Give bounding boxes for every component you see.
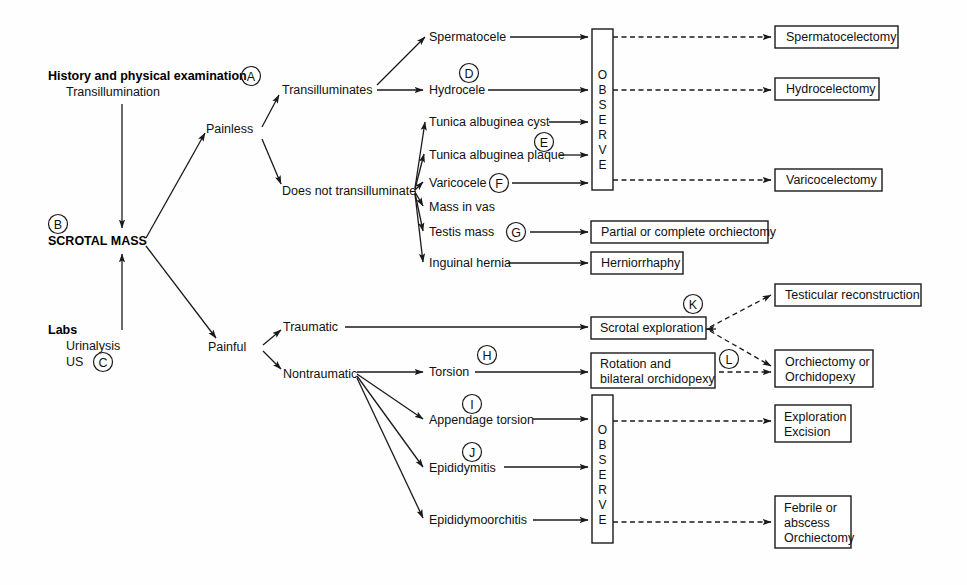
center-node-label: SCROTAL MASS: [48, 234, 147, 248]
letter-f-text: F: [495, 177, 503, 191]
box-testicular-reconstruction: Testicular reconstruction: [775, 284, 921, 306]
letter-g-text: G: [511, 226, 521, 240]
box-febrile-abscess-orchiectomy: Febrile or abscess Orchiectomy: [775, 496, 855, 548]
edge-scrotal-to-painless: [146, 133, 205, 238]
dx-epididymitis: Epididymitis: [429, 461, 496, 475]
dx-appendage-torsion: Appendage torsion: [429, 413, 534, 427]
observe-box-top: O B S E R V E: [592, 29, 613, 190]
box-hydrocelectomy: Hydrocelectomy: [775, 78, 879, 100]
labs-heading: Labs: [48, 323, 77, 337]
letter-g-badge: G: [507, 223, 526, 242]
dx-inguinal-hernia: Inguinal hernia: [429, 256, 511, 270]
root-group: History and physical examination Transil…: [48, 67, 261, 372]
painless-diagnosis-labels: Spermatocele Hydrocele Tunica albuginea …: [429, 30, 565, 270]
box-scrotal-exploration-text: Scrotal exploration: [600, 321, 704, 335]
dx-spermatocele: Spermatocele: [429, 30, 506, 44]
box-orchiectomy-line-1: Orchiectomy or: [785, 355, 870, 369]
branch-painless-label: Painless: [206, 122, 253, 136]
edge-painless-to-transilluminates: [262, 95, 279, 127]
box-orchiectomy-line-2: Orchidopexy: [785, 370, 856, 384]
letter-h-badge: H: [478, 346, 497, 365]
edge-nontraumatic-to-appendage-torsion: [357, 374, 423, 419]
box-spermatocelectomy-text: Spermatocelectomy: [786, 30, 897, 44]
dx-torsion: Torsion: [429, 365, 469, 379]
flowchart-canvas: History and physical examination Transil…: [0, 0, 967, 585]
svg-text:E: E: [598, 158, 606, 172]
edge-painful-to-traumatic: [263, 330, 281, 345]
letter-l-badge: L: [720, 350, 739, 369]
letter-e-text: E: [540, 136, 548, 150]
box-varicocelectomy-text: Varicocelectomy: [786, 173, 878, 187]
painful-diagnosis-labels: Torsion Appendage torsion Epididymitis E…: [429, 365, 534, 527]
letter-d-badge: D: [460, 64, 479, 83]
edge-scrotal-to-painful: [146, 246, 216, 338]
dx-tunica-albuginea-plaque: Tunica albuginea plaque: [429, 148, 565, 162]
box-rotation-bilateral-orchidopexy: Rotation and bilateral orchidopexy: [591, 353, 715, 388]
box-exploration-line-2: Excision: [784, 425, 831, 439]
observe-bottom-outcome-edges: [613, 421, 771, 522]
letter-e-badge: E: [535, 133, 554, 152]
labs-line-1: Urinalysis: [66, 339, 120, 353]
letter-i-badge: I: [463, 395, 482, 414]
box-herniorrhaphy: Herniorrhaphy: [591, 252, 683, 274]
box-orchiectomy-or-orchidopexy: Orchiectomy or Orchidopexy: [775, 350, 873, 387]
edge-nontraumatic-to-epididymitis: [357, 376, 423, 467]
box-febrile-line-2: abscess: [784, 516, 830, 530]
dx-testis-mass: Testis mass: [429, 225, 494, 239]
letter-h-text: H: [482, 349, 491, 363]
letter-b-text: B: [54, 218, 62, 232]
nontraumatic-fan-edges: [357, 372, 423, 518]
letter-d-text: D: [464, 67, 473, 81]
observe-box-bottom: O B S E R V E: [592, 395, 613, 543]
svg-text:O: O: [598, 423, 607, 437]
scrotal-mass-algorithm-diagram: History and physical examination Transil…: [0, 0, 967, 585]
observe-top-outcome-edges: [613, 37, 771, 180]
box-scrotal-exploration: Scrotal exploration: [591, 317, 706, 339]
box-exploration-line-1: Exploration: [784, 410, 847, 424]
svg-text:R: R: [598, 128, 607, 142]
branch-nontraumatic-label: Nontraumatic: [283, 367, 357, 381]
dx-epididymoorchitis: Epididymoorchitis: [429, 513, 527, 527]
box-febrile-line-3: Orchiectomy: [784, 531, 855, 545]
letter-l-text: L: [726, 353, 733, 367]
edge-transilluminates-to-spermatocele: [377, 37, 425, 85]
svg-text:B: B: [598, 438, 606, 452]
edge-painless-to-does-not-transilluminate: [262, 139, 281, 184]
letter-b-badge: B: [49, 215, 68, 234]
box-testicular-reconstruction-text: Testicular reconstruction: [785, 288, 920, 302]
history-subtext: Transillumination: [66, 85, 160, 99]
does-not-transilluminate-edges: [415, 122, 425, 262]
box-rotation-line-2: bilateral orchidopexy: [600, 372, 715, 386]
svg-text:O: O: [598, 68, 607, 82]
box-varicocelectomy: Varicocelectomy: [775, 169, 882, 191]
branch-transilluminates-label: Transilluminates: [282, 83, 373, 97]
box-herniorrhaphy-text: Herniorrhaphy: [601, 256, 681, 270]
box-hydrocelectomy-text: Hydrocelectomy: [786, 82, 876, 96]
history-heading: History and physical examination: [48, 69, 247, 83]
box-partial-or-complete-orchiectomy: Partial or complete orchiectomy: [591, 221, 777, 243]
svg-text:E: E: [598, 468, 606, 482]
svg-text:S: S: [598, 98, 606, 112]
letter-k-text: K: [689, 298, 698, 312]
letter-f-badge: F: [490, 174, 509, 193]
box-exploration-excision: Exploration Excision: [775, 405, 851, 442]
dx-varicocele: Varicocele: [429, 176, 486, 190]
svg-text:V: V: [598, 498, 606, 512]
letter-k-badge: K: [684, 295, 703, 314]
labs-line-2: US: [66, 355, 83, 369]
dx-tunica-albuginea-cyst: Tunica albuginea cyst: [429, 115, 550, 129]
branch-painful-label: Painful: [208, 340, 246, 354]
svg-text:S: S: [598, 453, 606, 467]
letter-a-text: A: [247, 70, 256, 84]
branch-does-not-transilluminate-label: Does not transilluminate: [282, 184, 416, 198]
branch-traumatic-label: Traumatic: [283, 320, 338, 334]
box-partial-orchiectomy-text: Partial or complete orchiectomy: [601, 225, 777, 239]
box-febrile-line-1: Febrile or: [784, 501, 837, 515]
dx-mass-in-vas: Mass in vas: [429, 200, 495, 214]
letter-j-badge: J: [463, 443, 482, 462]
letter-j-text: J: [469, 446, 475, 460]
dx-hydrocele: Hydrocele: [429, 83, 485, 97]
svg-text:E: E: [598, 113, 606, 127]
painful-split-group: Traumatic Nontraumatic: [263, 320, 357, 381]
box-spermatocelectomy: Spermatocelectomy: [775, 26, 898, 48]
